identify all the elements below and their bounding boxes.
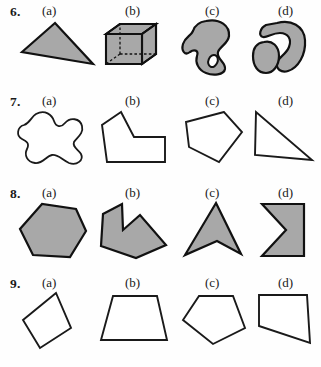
option-label-6c: (c): [205, 3, 219, 19]
option-label-9c: (c): [205, 275, 219, 291]
figure-9b-trapezoid-outline: [96, 290, 174, 348]
option-label-8d: (d): [278, 185, 293, 201]
figure-7c-pentagon-outline: [180, 108, 248, 166]
option-label-9b: (b): [125, 275, 140, 291]
figure-9d-right-trapezoid-outline: [250, 290, 314, 348]
figure-7a-curvy-blob-outline: [14, 108, 94, 168]
option-label-8a: (a): [42, 185, 56, 201]
option-label-6a: (a): [42, 3, 56, 19]
question-row-9: 9. (a) (b) (c) (d): [0, 272, 321, 367]
figure-8b-shaded-concave-arrow-polygon: [96, 200, 172, 262]
figure-6c-shaded-blob-with-hole: [180, 18, 242, 76]
figure-6d-two-shaded-blobs: [250, 18, 312, 76]
figure-6a-shaded-obtuse-triangle: [14, 18, 98, 70]
figure-9c-pentagon-outline: [180, 290, 250, 348]
option-label-8c: (c): [205, 185, 219, 201]
option-label-6b: (b): [125, 3, 140, 19]
figure-8a-shaded-hexagon: [14, 200, 94, 262]
option-label-7b: (b): [125, 93, 140, 109]
figure-9a-tilted-quadrilateral-outline: [14, 290, 90, 352]
option-label-9a: (a): [42, 275, 56, 291]
figure-8c-shaded-arrowhead-polygon: [180, 200, 248, 260]
worksheet-page: 6. (a) (b) (c) (d): [0, 0, 321, 367]
option-label-9d: (d): [278, 275, 293, 291]
question-row-7: 7. (a) (b) (c) (d): [0, 90, 321, 182]
option-label-7a: (a): [42, 93, 56, 109]
option-label-6d: (d): [278, 3, 293, 19]
figure-7b-l-shaped-polygon-outline: [96, 108, 170, 170]
question-row-8: 8. (a) (b) (c) (d): [0, 182, 321, 272]
question-row-6: 6. (a) (b) (c) (d): [0, 0, 321, 90]
figure-7d-right-triangle-outline: [250, 108, 316, 166]
option-label-7c: (c): [205, 93, 219, 109]
option-label-7d: (d): [278, 93, 293, 109]
figure-8d-shaded-chevron-notch-polygon: [250, 200, 314, 260]
option-label-8b: (b): [125, 185, 140, 201]
figure-6b-wireframe-cube: [96, 18, 166, 72]
